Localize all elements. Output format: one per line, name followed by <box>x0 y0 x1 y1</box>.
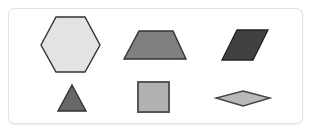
screenshot-root <box>0 0 311 134</box>
shape-parallelogram[interactable] <box>222 30 268 60</box>
shape-hexagon[interactable] <box>41 17 100 72</box>
shape-trapezoid[interactable] <box>124 31 186 59</box>
shape-square[interactable] <box>138 82 169 112</box>
shape-triangle[interactable] <box>58 85 86 111</box>
shape-rhombus[interactable] <box>216 91 270 106</box>
shapes-canvas <box>0 0 311 134</box>
